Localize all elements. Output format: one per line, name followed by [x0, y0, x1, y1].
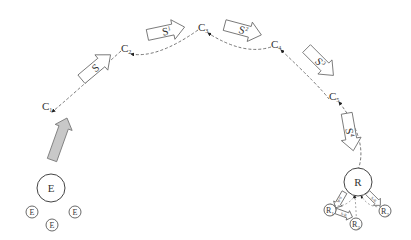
node-label-c5: C5 — [329, 91, 339, 103]
svg-text:E: E — [48, 182, 55, 194]
svg-text:E: E — [50, 221, 55, 230]
node-label-c3: C3 — [198, 22, 208, 34]
source-member-e-2: E — [69, 206, 81, 218]
gray-arrow-icon — [44, 115, 76, 163]
source-member-e-1: E — [46, 219, 58, 231]
diagram-canvas: SS1S2S3S4 EEEES-RS-RS-RRR1R2R3 — [0, 0, 411, 240]
step-arrow-3: S3 — [299, 41, 340, 82]
step-arrow-4: S4 — [337, 112, 363, 153]
step-arrow-1: S1 — [145, 17, 186, 44]
source-node-e: E — [37, 174, 65, 202]
target-member-r3: R3 — [379, 205, 391, 217]
target-member-r2: R2 — [350, 218, 362, 230]
svg-text:E: E — [30, 208, 35, 217]
node-label-c4: C4 — [271, 39, 281, 51]
node-groups: EEEES-RS-RS-RRR1R2R3 — [26, 168, 391, 231]
svg-text:E: E — [73, 208, 78, 217]
entry-arrow — [44, 115, 76, 163]
target-member-r1: R1 — [324, 204, 336, 216]
source-member-e-0: E — [26, 206, 38, 218]
svg-text:R: R — [354, 176, 362, 188]
step-arrow-2: S2 — [222, 15, 264, 44]
target-node-r: R — [344, 168, 372, 196]
node-label-c1: C1 — [42, 101, 52, 113]
member-edge-1 — [355, 196, 356, 219]
step-arrow-0: S — [75, 47, 117, 87]
node-label-c2: C2 — [121, 43, 131, 55]
step-arrows: SS1S2S3S4 — [75, 15, 363, 152]
dashed-edge-c4-to-c3 — [208, 33, 271, 49]
